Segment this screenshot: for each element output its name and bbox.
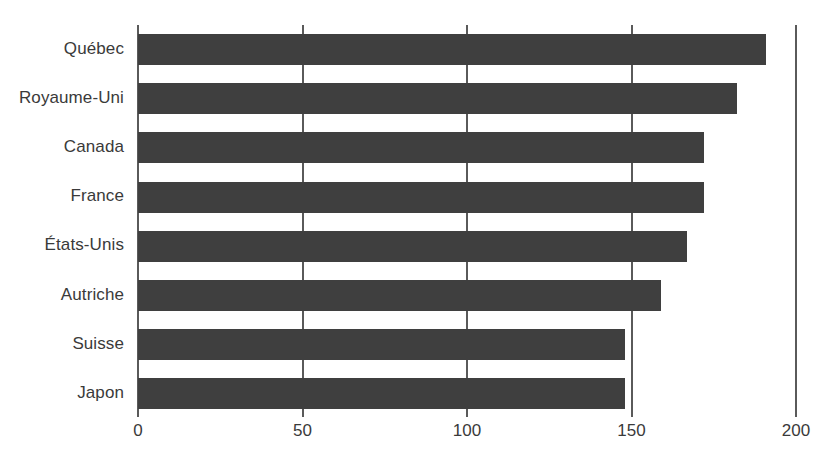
x-tick-label-150: 150 [602,421,662,441]
category-label: Canada [0,138,124,155]
x-tick-label-100: 100 [437,421,497,441]
bar [138,83,737,114]
y-axis-label-row: France [0,187,124,207]
bar [138,132,704,163]
category-label: Québec [0,40,124,57]
y-axis-label-row: Suisse [0,335,124,355]
category-label: France [0,187,124,204]
bar [138,34,766,65]
bar [138,329,625,360]
category-label: Japon [0,384,124,401]
gridline-200 [795,25,797,417]
y-axis-label-row: Royaume-Uni [0,89,124,109]
y-axis-label-row: Japon [0,384,124,404]
x-tick-label-50: 50 [273,421,333,441]
category-label: États-Unis [0,236,124,253]
y-axis-label-row: États-Unis [0,236,124,256]
category-label: Suisse [0,335,124,352]
x-tick-label-200: 200 [766,421,826,441]
category-label: Royaume-Uni [0,89,124,106]
y-axis-category-labels: QuébecRoyaume-UniCanadaFranceÉtats-UnisA… [0,0,131,464]
bar [138,280,661,311]
category-label: Autriche [0,286,124,303]
y-axis-label-row: Québec [0,40,124,60]
bar [138,378,625,409]
bar [138,182,704,213]
y-axis-label-row: Autriche [0,286,124,306]
bar [138,231,687,262]
bar-chart: 050100150200 QuébecRoyaume-UniCanadaFran… [0,0,831,464]
y-axis-label-row: Canada [0,138,124,158]
